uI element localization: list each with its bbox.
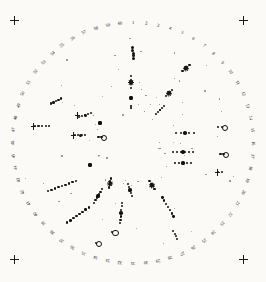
scale-label-59: 59 <box>106 23 111 28</box>
scale-label-44: 44 <box>13 165 18 170</box>
scale-label-58: 58 <box>93 26 98 32</box>
scan-grain-speck <box>174 78 175 79</box>
scan-grain-speck <box>219 98 220 99</box>
scan-grain-speck <box>204 90 206 92</box>
scale-label-50: 50 <box>20 91 26 97</box>
scan-grain-speck <box>182 114 183 115</box>
scan-grain-speck <box>182 102 183 103</box>
scan-grain-speck <box>159 142 160 143</box>
scale-label-57: 57 <box>81 30 87 36</box>
scan-grain-speck <box>111 86 112 87</box>
scan-grain-speck <box>137 181 138 182</box>
scan-grain-speck <box>114 55 115 56</box>
scan-grain-speck <box>206 65 207 66</box>
scan-grain-speck <box>106 157 108 159</box>
scale-label-8: 8 <box>211 51 216 56</box>
scale-label-28: 28 <box>167 254 172 260</box>
scale-label-52: 52 <box>33 69 39 75</box>
scale-label-42: 42 <box>20 189 26 195</box>
scale-label-53: 53 <box>41 60 47 66</box>
scale-label-7: 7 <box>201 43 205 48</box>
scale-label-12: 12 <box>240 91 246 97</box>
scan-grain-speck <box>184 155 185 156</box>
circular-plate: 1234567891011121314151617181920212223242… <box>0 0 266 282</box>
scale-label-13: 13 <box>244 103 250 108</box>
scale-label-49: 49 <box>16 103 22 108</box>
scan-grain-speck <box>123 183 124 184</box>
scale-label-33: 33 <box>106 258 111 263</box>
scale-label-14: 14 <box>248 116 253 121</box>
scan-grain-speck <box>125 180 126 181</box>
scan-grain-speck <box>152 119 154 121</box>
scan-grain-speck <box>151 182 152 183</box>
scale-label-26: 26 <box>190 244 196 250</box>
scan-grain-speck <box>173 142 174 143</box>
corner-registration-mark-bottom-left <box>10 255 19 264</box>
scan-grain-speck <box>156 97 157 98</box>
scan-grain-speck <box>74 105 75 106</box>
scan-grain-speck <box>217 136 218 137</box>
scale-label-10: 10 <box>227 69 233 75</box>
scan-grain-speck <box>105 179 106 180</box>
scale-label-21: 21 <box>234 200 240 206</box>
scan-grain-speck <box>61 155 63 157</box>
scan-grain-speck <box>66 59 68 61</box>
scan-grain-speck <box>139 82 140 83</box>
scale-label-39: 39 <box>41 220 47 226</box>
scan-grain-speck <box>221 111 222 112</box>
scale-label-48: 48 <box>13 116 18 121</box>
scale-label-17: 17 <box>250 153 255 158</box>
scan-grain-speck <box>179 80 180 81</box>
scan-grain-speck <box>173 125 174 126</box>
scan-grain-speck <box>62 102 63 103</box>
scan-grain-speck <box>129 38 130 39</box>
scan-grain-speck <box>95 124 96 125</box>
scan-grain-speck <box>70 193 71 194</box>
scan-grain-speck <box>136 228 137 229</box>
scale-label-43: 43 <box>16 177 22 182</box>
scan-grain-speck <box>229 180 230 181</box>
scan-grain-speck <box>233 176 234 177</box>
scale-label-9: 9 <box>220 60 225 65</box>
scan-grain-speck <box>89 140 90 141</box>
corner-registration-mark-top-left <box>10 16 19 25</box>
scan-grain-speck <box>43 183 44 184</box>
scale-label-60: 60 <box>118 21 123 26</box>
scan-grain-speck <box>180 143 181 144</box>
scan-grain-speck <box>102 219 103 220</box>
scan-grain-speck <box>144 111 145 112</box>
scan-grain-speck <box>118 69 119 70</box>
scale-label-23: 23 <box>219 220 225 226</box>
scan-grain-speck <box>163 243 164 244</box>
scale-label-25: 25 <box>200 237 206 243</box>
scan-grain-speck <box>174 208 175 209</box>
scan-grain-speck <box>115 203 116 204</box>
scale-label-2: 2 <box>144 21 147 26</box>
scan-grain-speck <box>159 104 160 105</box>
scale-label-45: 45 <box>11 153 16 158</box>
scale-label-19: 19 <box>244 177 250 182</box>
scale-label-35: 35 <box>81 250 87 256</box>
scale-label-56: 56 <box>70 36 76 42</box>
scan-grain-speck <box>25 178 26 179</box>
scale-label-31: 31 <box>131 261 135 266</box>
scan-grain-speck <box>174 52 175 53</box>
scale-label-37: 37 <box>59 237 65 243</box>
scale-label-54: 54 <box>50 51 56 57</box>
scale-label-24: 24 <box>210 229 216 235</box>
scale-label-5: 5 <box>180 31 184 36</box>
corner-registration-mark-bottom-right <box>239 255 248 264</box>
scale-label-1: 1 <box>132 21 134 26</box>
corner-registration-mark-top-right <box>239 16 248 25</box>
scale-label-16: 16 <box>251 141 256 145</box>
scale-label-15: 15 <box>250 128 255 133</box>
scale-label-6: 6 <box>191 37 195 42</box>
scan-grain-speck <box>166 166 167 167</box>
scale-label-34: 34 <box>93 254 98 260</box>
scan-grain-speck <box>140 51 141 52</box>
scale-label-51: 51 <box>26 80 32 86</box>
scan-grain-speck <box>205 174 206 175</box>
scan-grain-speck <box>159 148 160 149</box>
scale-label-18: 18 <box>248 165 253 170</box>
scale-label-20: 20 <box>240 189 246 195</box>
